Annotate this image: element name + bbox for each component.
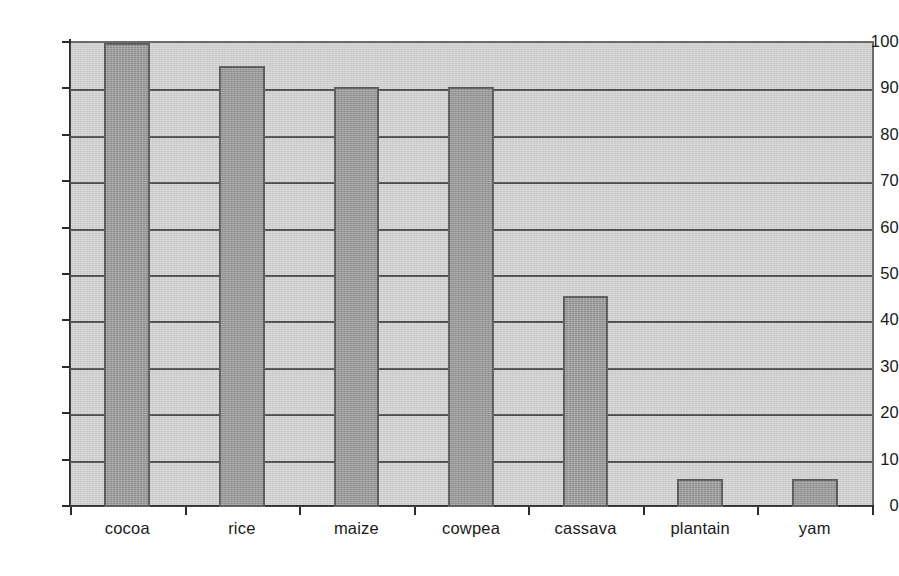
y-tick-100	[62, 41, 71, 43]
x-axis-label-yam: yam	[799, 520, 831, 537]
bar-yam	[792, 479, 838, 507]
y-tick-label-70: 70	[847, 172, 899, 189]
x-tick-2	[299, 505, 301, 515]
bar-plantain	[677, 479, 723, 507]
y-tick-label-60: 60	[847, 218, 899, 235]
x-axis-label-cassava: cassava	[555, 520, 617, 537]
x-tick-7	[872, 505, 874, 515]
bar-cocoa	[104, 43, 150, 507]
y-tick-label-100: 100	[847, 33, 899, 50]
x-axis-label-rice: rice	[228, 520, 255, 537]
bar-chart-figure: 0102030405060708090100 cocoaricemaizecow…	[0, 0, 899, 576]
bar-rice	[219, 66, 265, 507]
bar-cowpea	[448, 87, 494, 507]
x-tick-6	[757, 505, 759, 515]
x-tick-4	[528, 505, 530, 515]
y-tick-label-90: 90	[847, 79, 899, 96]
y-tick-label-10: 10	[847, 450, 899, 467]
x-axis-label-plantain: plantain	[670, 520, 729, 537]
x-axis-label-cowpea: cowpea	[442, 520, 500, 537]
y-tick-label-40: 40	[847, 311, 899, 328]
x-axis-label-cocoa: cocoa	[105, 520, 150, 537]
x-tick-1	[185, 505, 187, 515]
x-axis-label-maize: maize	[334, 520, 379, 537]
bar-cassava	[563, 296, 609, 507]
y-tick-label-50: 50	[847, 265, 899, 282]
x-tick-3	[414, 505, 416, 515]
x-tick-5	[643, 505, 645, 515]
bar-maize	[334, 87, 380, 507]
plot-area	[70, 41, 874, 507]
y-tick-label-80: 80	[847, 126, 899, 143]
x-tick-0	[70, 505, 72, 515]
y-tick-label-20: 20	[847, 404, 899, 421]
y-tick-label-30: 30	[847, 358, 899, 375]
